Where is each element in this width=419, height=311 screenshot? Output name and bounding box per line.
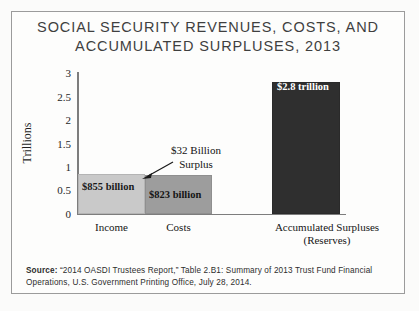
y-tick-1: 1 [66, 161, 79, 173]
surplus-annotation-line-1: $32 Billion [148, 144, 244, 158]
y-axis-label: Trillions [20, 123, 35, 164]
bar-income [78, 174, 145, 214]
category-label-reserves: Accumulated Surpluses (Reserves) [244, 221, 410, 247]
source-note: Source: “2014 OASDI Trustees Report,” Ta… [26, 265, 394, 288]
bar-costs-value-label: $823 billion [149, 189, 201, 200]
y-tick-3: 3 [66, 67, 79, 79]
y-tick-2: 2 [66, 114, 79, 126]
y-tick-2-5: 2.5 [57, 91, 78, 103]
bar-accumulated-surpluses [272, 82, 340, 214]
chart-title-line-1: SOCIAL SECURITY REVENUES, COSTS, AND [20, 18, 396, 37]
chart-title: SOCIAL SECURITY REVENUES, COSTS, AND ACC… [20, 18, 396, 56]
chart-figure: SOCIAL SECURITY REVENUES, COSTS, AND ACC… [0, 0, 419, 311]
category-label-reserves-line-2: (Reserves) [244, 234, 410, 247]
category-label-costs: Costs [145, 221, 212, 234]
category-label-income: Income [78, 221, 145, 234]
source-note-label: Source: [26, 266, 58, 275]
chart-title-line-2: ACCUMULATED SURPLUSES, 2013 [20, 37, 396, 56]
y-tick-1-5: 1.5 [57, 138, 78, 150]
y-tick-0: 0 [66, 208, 79, 220]
category-label-reserves-line-1: Accumulated Surpluses [244, 221, 410, 234]
source-note-text: “2014 OASDI Trustees Report,” Table 2.B1… [26, 266, 372, 287]
bar-reserves-value-label: $2.8 trillion [277, 81, 329, 92]
bar-income-value-label: $855 billion [82, 181, 134, 192]
y-tick-0-5: 0.5 [57, 184, 78, 196]
surplus-arrow-icon [139, 161, 175, 183]
